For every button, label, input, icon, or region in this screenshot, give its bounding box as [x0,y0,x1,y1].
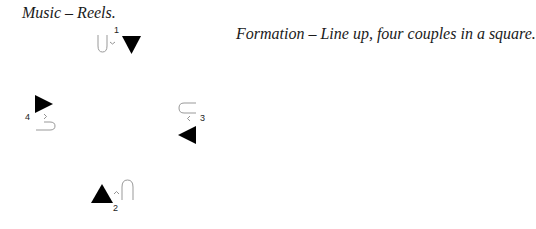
woman-loop-icon [122,180,133,200]
couple-4 [35,95,55,130]
chevron-down-icon [110,42,115,44]
chevron-left-icon [188,116,191,121]
couple-2-number: 2 [113,204,118,213]
chevron-up-icon [114,192,119,195]
man-triangle-down-icon [122,36,141,54]
couple-2 [91,180,133,203]
woman-loop-icon [179,103,196,113]
chevron-right-icon [44,114,47,119]
couple-1-number: 1 [114,26,119,35]
man-triangle-up-icon [91,184,113,203]
couple-3 [178,103,196,144]
woman-loop-icon [98,35,107,52]
couple-1 [98,35,141,54]
man-triangle-right-icon [35,95,53,113]
man-triangle-left-icon [178,126,196,144]
couple-3-number: 3 [200,114,205,123]
square-formation-diagram [0,0,536,229]
couple-4-number: 4 [25,113,30,122]
woman-loop-icon [36,122,55,130]
